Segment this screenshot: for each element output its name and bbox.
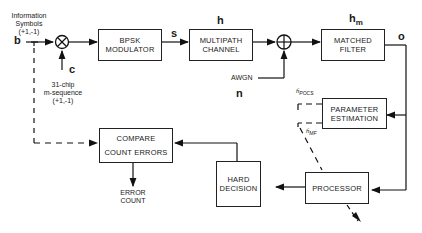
processor-block: PROCESSOR [305,172,369,204]
m-sequence-line2: m-sequence [40,89,86,97]
error-count-line1: ERROR [117,189,149,197]
multipath-channel-line2: CHANNEL [202,45,239,54]
signal-hm-sub: m [356,18,363,27]
info-symbols-line2: Symbols [8,20,50,28]
m-sequence-line1: 31-chip [40,81,86,89]
compare-line2: COUNT ERRORS [104,148,167,157]
multipath-channel-line1: MULTIPATH [200,36,243,45]
hard-decision-block: HARD DECISION [216,161,261,207]
info-symbols-line1: Information [8,12,50,20]
compare-count-errors-block: COMPARE COUNT ERRORS [99,128,173,163]
error-count-line2: COUNT [117,197,149,205]
parameter-estimation-line1: PARAMETER [331,105,379,114]
signal-b: b [14,34,21,46]
h-mf-sub: MF [309,130,316,136]
information-symbols-label: Information Symbols (+1,-1) [8,12,50,36]
signal-h: h [217,14,224,26]
signal-hm: hm [349,12,363,27]
matched-filter-line2: FILTER [340,45,366,54]
h-pocs-sub: POCS [299,90,313,96]
m-sequence-line3: (+1,-1) [40,97,86,105]
multipath-channel-block: MULTIPATH CHANNEL [189,29,253,61]
bpsk-modulator-block: BPSK MODULATOR [98,29,162,61]
hard-decision-line2: DECISION [220,184,258,193]
bpsk-modulator-line2: MODULATOR [105,45,154,54]
signal-hm-base: h [349,12,356,24]
matched-filter-line1: MATCHED [334,36,372,45]
compare-line1: COMPARE [117,134,156,143]
processor-label: PROCESSOR [312,184,362,193]
signal-s: s [171,27,177,39]
m-sequence-label: 31-chip m-sequence (+1,-1) [40,81,86,105]
bpsk-modulator-line1: BPSK [120,36,141,45]
matched-filter-block: MATCHED FILTER [321,29,385,61]
signal-c: c [69,63,75,75]
parameter-estimation-line2: ESTIMATION [331,114,378,123]
signal-n: n [236,87,243,99]
parameter-estimation-block: PARAMETER ESTIMATION [322,98,387,129]
signal-h-mf: ĥMF [306,128,317,136]
error-count-label: ERROR COUNT [117,189,149,205]
signal-o: o [398,30,405,42]
hard-decision-line1: HARD [227,175,249,184]
signal-h-pocs: ĥPOCS [296,88,314,96]
block-diagram: BPSK MODULATOR MULTIPATH CHANNEL MATCHED… [0,0,422,233]
awgn-label: AWGN [231,74,253,82]
